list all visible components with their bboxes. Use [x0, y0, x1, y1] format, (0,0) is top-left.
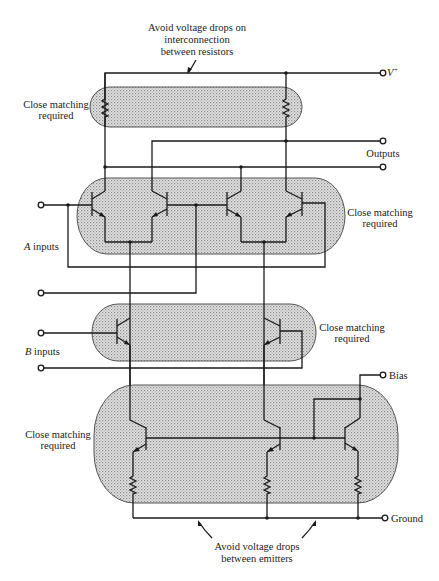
top-note-line-2: interconnection: [164, 34, 230, 45]
bias-band-label-1: Close matching: [25, 429, 91, 440]
bias-band-label-2: required: [41, 440, 77, 451]
b-transistor-matching-band: [92, 304, 316, 361]
bottom-note-arrow-right-icon: [302, 520, 316, 538]
bottom-note-line-1: Avoid voltage drops: [215, 541, 300, 552]
ground-terminal[interactable]: [382, 515, 388, 521]
bias-label: Bias: [389, 370, 408, 381]
a-band-label-1: Close matching: [347, 207, 413, 218]
top-note-line-3: between resistors: [161, 46, 234, 57]
a-band-label-2: required: [363, 218, 399, 229]
output-terminal-2[interactable]: [380, 164, 386, 170]
resistor-band-label-1: Close matching: [23, 99, 89, 110]
bias-transistor-matching-band: [94, 385, 398, 503]
outputs-label: Outputs: [366, 148, 399, 159]
vplus-terminal[interactable]: [380, 70, 386, 76]
a-input-terminal-1[interactable]: [38, 202, 44, 208]
top-note-arrow-icon: [187, 60, 196, 74]
bottom-note-line-2: between emitters: [221, 553, 292, 564]
bias-terminal[interactable]: [380, 372, 386, 378]
b-band-label-2: required: [335, 333, 371, 344]
b-band-label-1: Close matching: [319, 322, 385, 333]
b-inputs-label: B inputs: [25, 346, 60, 357]
top-note-line-1: Avoid voltage drops on: [148, 22, 247, 33]
a-input-terminal-2[interactable]: [38, 290, 44, 296]
vplus-label: V+: [387, 66, 398, 78]
circuit-diagram: Avoid voltage drops on interconnection b…: [0, 0, 439, 581]
bottom-note-arrow-left-icon: [198, 520, 212, 538]
b-input-terminal-2[interactable]: [38, 365, 44, 371]
ground-label: Ground: [391, 513, 424, 524]
resistor-matching-band: [90, 87, 302, 127]
resistor-band-label-2: required: [39, 110, 75, 121]
b-input-terminal-1[interactable]: [38, 330, 44, 336]
a-inputs-label: A inputs: [23, 241, 59, 252]
output-terminal-1[interactable]: [380, 138, 386, 144]
